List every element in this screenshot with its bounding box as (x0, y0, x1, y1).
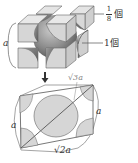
corner-atom-unit: 個 (114, 10, 123, 19)
section-bottom-edge-label: √2a (54, 146, 71, 155)
center-atom-count: 1 (104, 39, 110, 48)
edge-brace (8, 23, 16, 68)
fraction-denominator: 8 (107, 16, 111, 23)
cube-edge-label: a (3, 39, 8, 48)
fraction-numerator: 1 (107, 6, 111, 13)
bcc-unit-cell (8, 6, 104, 68)
down-arrow-icon (42, 72, 49, 83)
diagonal-cross-section (14, 82, 98, 152)
corner-atom-front-bottom-left (18, 48, 38, 68)
section-right-edge-label: a (96, 107, 101, 116)
corner-atom-fraction: 1 8 (106, 6, 112, 23)
corner-atom-right-middle (76, 30, 88, 58)
center-atom-unit: 個 (110, 39, 119, 48)
diagonal-label: √3a (68, 74, 83, 82)
section-left-edge-label: a (11, 121, 16, 130)
